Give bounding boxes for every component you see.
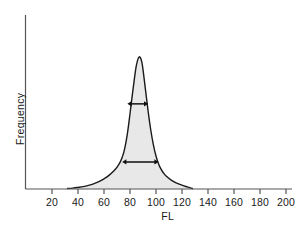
- arrow-head-left: [127, 101, 131, 106]
- distribution-area-fill: [68, 57, 193, 189]
- x-axis-tick-label: 140: [199, 196, 217, 208]
- x-axis-tick-marks: [52, 189, 286, 194]
- x-axis-tick-label: 200: [277, 196, 295, 208]
- x-axis-tick-label: 40: [72, 196, 84, 208]
- x-axis-tick-label: 20: [46, 196, 58, 208]
- chart-plot-group: [68, 57, 193, 189]
- x-axis-tick-label: 160: [225, 196, 243, 208]
- y-axis-title: Frequency: [14, 93, 26, 145]
- x-axis-tick-label: 120: [173, 196, 191, 208]
- x-axis-title: FL: [161, 210, 174, 222]
- x-axis-tick-label: 100: [147, 196, 165, 208]
- chart-figure: 20406080100120140160180200 FL Frequency: [0, 0, 300, 232]
- x-axis-tick-label: 180: [251, 196, 269, 208]
- x-axis-tick-label: 80: [124, 196, 136, 208]
- x-axis-tick-label: 60: [98, 196, 110, 208]
